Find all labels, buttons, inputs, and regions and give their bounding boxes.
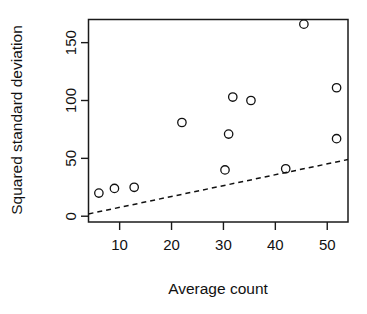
data-point [282,165,290,173]
x-axis-ticks: 1020304050 [111,222,335,253]
data-point [332,84,340,92]
data-point [110,184,118,192]
x-tick-label: 20 [163,236,180,253]
plot-canvas: 050100150 1020304050 Average count Squar… [0,0,367,314]
y-axis-ticks: 050100150 [62,30,89,220]
data-point [178,118,186,126]
y-tick-label: 150 [62,30,79,55]
y-tick-label: 50 [62,150,79,167]
plot-frame [89,20,349,223]
data-points-group [95,20,341,197]
x-axis-title: Average count [168,280,268,297]
x-tick-label: 30 [215,236,232,253]
y-tick-label: 100 [62,88,79,113]
data-point [229,93,237,101]
scatter-plot-figure: 050100150 1020304050 Average count Squar… [0,0,367,314]
data-point [247,96,255,104]
reference-dashed-line [89,160,349,214]
y-tick-label: 0 [62,212,79,220]
x-tick-label: 50 [319,236,336,253]
data-point [221,166,229,174]
data-point [95,189,103,197]
x-tick-label: 40 [267,236,284,253]
y-axis-title: Squared standard deviation [8,25,25,215]
x-tick-label: 10 [111,236,128,253]
data-point [332,134,340,142]
data-point [224,130,232,138]
data-point [130,183,138,191]
data-point [300,20,308,28]
